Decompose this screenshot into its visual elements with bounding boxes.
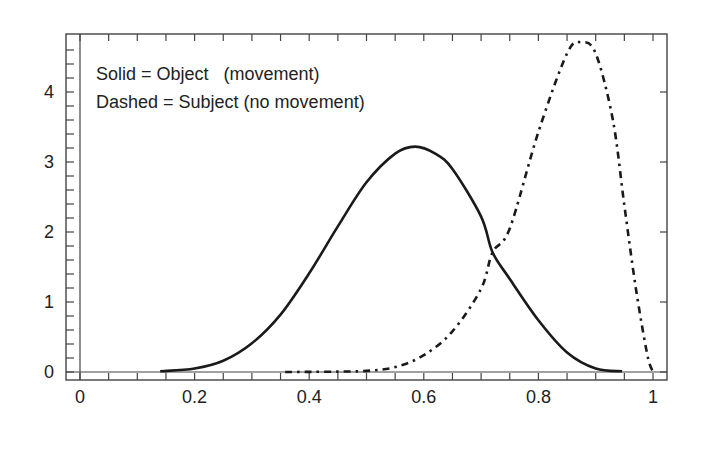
x-tick-label: 0 bbox=[75, 387, 85, 407]
plot-frame bbox=[66, 34, 667, 380]
tick-labels: 00.20.40.60.8101234 bbox=[44, 82, 658, 407]
x-tick-label: 0.6 bbox=[411, 387, 436, 407]
y-tick-label: 0 bbox=[44, 362, 54, 382]
object-movement-curve bbox=[160, 147, 622, 372]
x-tick-label: 0.4 bbox=[297, 387, 322, 407]
legend-dashed-label: Dashed = Subject (no movement) bbox=[96, 92, 365, 113]
legend-solid-label: Solid = Object (movement) bbox=[96, 64, 320, 85]
y-tick-label: 3 bbox=[44, 152, 54, 172]
axis-ticks bbox=[66, 34, 667, 380]
y-tick-label: 4 bbox=[44, 82, 54, 102]
y-tick-label: 1 bbox=[44, 292, 54, 312]
y-tick-label: 2 bbox=[44, 222, 54, 242]
x-tick-label: 0.8 bbox=[526, 387, 551, 407]
x-tick-label: 0.2 bbox=[182, 387, 207, 407]
x-tick-label: 1 bbox=[648, 387, 658, 407]
